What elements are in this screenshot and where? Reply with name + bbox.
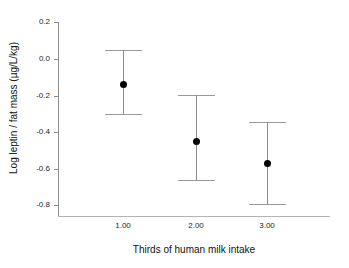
errorbar-lower-cap (105, 114, 142, 115)
x-tick-label: 1.00 (103, 221, 143, 230)
x-tick-label: 3.00 (247, 221, 287, 230)
y-tick-mark (54, 22, 58, 23)
errorbar-lower-cap (249, 204, 286, 205)
data-point (193, 138, 200, 145)
x-axis-line (58, 216, 330, 217)
y-tick-mark (54, 169, 58, 170)
x-axis-title: Thirds of human milk intake (58, 244, 330, 256)
y-tick-mark (54, 132, 58, 133)
y-axis-line (58, 22, 59, 216)
y-tick-label: -0.6 (36, 165, 50, 173)
data-point (264, 160, 271, 167)
y-tick-mark (54, 59, 58, 60)
chart-figure: 0.2 0.0 -0.2 -0.4 -0.6 -0.8 1.00 2.00 3.… (0, 0, 349, 268)
x-tick-label: 2.00 (176, 221, 216, 230)
y-tick-mark (54, 96, 58, 97)
data-point (120, 81, 127, 88)
y-tick-label: -0.4 (36, 128, 50, 136)
y-tick-label: -0.8 (36, 201, 50, 209)
y-tick-mark (54, 205, 58, 206)
y-tick-label: 0.2 (39, 18, 50, 26)
y-tick-label: -0.2 (36, 92, 50, 100)
y-tick-label: 0.0 (39, 55, 50, 63)
y-axis-title: Log leptin / fat mass (µg/L/kg) (6, 0, 22, 216)
errorbar-lower-cap (178, 180, 215, 181)
